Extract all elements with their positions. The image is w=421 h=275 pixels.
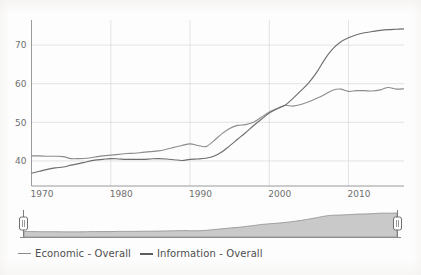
x-tick-label-1980: 1980 (110, 189, 133, 199)
range-slider-svg[interactable] (18, 206, 403, 240)
y-tick-label-40: 40 (15, 156, 27, 166)
time-range-slider[interactable] (18, 206, 403, 240)
chart-legend: Economic - Overall Information - Overall (18, 248, 263, 259)
x-tick-label-1970: 1970 (31, 189, 54, 199)
legend-line-icon-information (140, 253, 153, 255)
plot-svg: 40506070 19701980199020002010 (0, 0, 421, 205)
x-axis-tick-labels: 19701980199020002010 (31, 189, 371, 199)
legend-line-icon-economic (18, 253, 31, 254)
x-tick-label-2000: 2000 (268, 189, 291, 199)
y-tick-label-60: 60 (15, 79, 27, 89)
line-chart-widget: 40506070 19701980199020002010 (0, 0, 421, 275)
legend-item-economic-overall[interactable]: Economic - Overall (18, 248, 131, 259)
legend-label-information: Information - Overall (157, 248, 263, 259)
y-axis-tick-labels: 40506070 (15, 40, 27, 166)
range-slider-overview-area (24, 213, 397, 237)
x-tick-label-2010: 2010 (348, 189, 371, 199)
horizontal-gridlines (32, 45, 405, 161)
legend-item-information-overall[interactable]: Information - Overall (140, 248, 263, 259)
x-tick-label-1990: 1990 (189, 189, 212, 199)
legend-label-economic: Economic - Overall (35, 248, 131, 259)
y-tick-label-70: 70 (15, 40, 27, 50)
series-lines (32, 29, 405, 173)
plot-area: 40506070 19701980199020002010 (0, 0, 421, 205)
series-line-economic-overall (32, 88, 405, 159)
series-line-information-overall (32, 29, 405, 173)
y-tick-label-50: 50 (15, 118, 27, 128)
